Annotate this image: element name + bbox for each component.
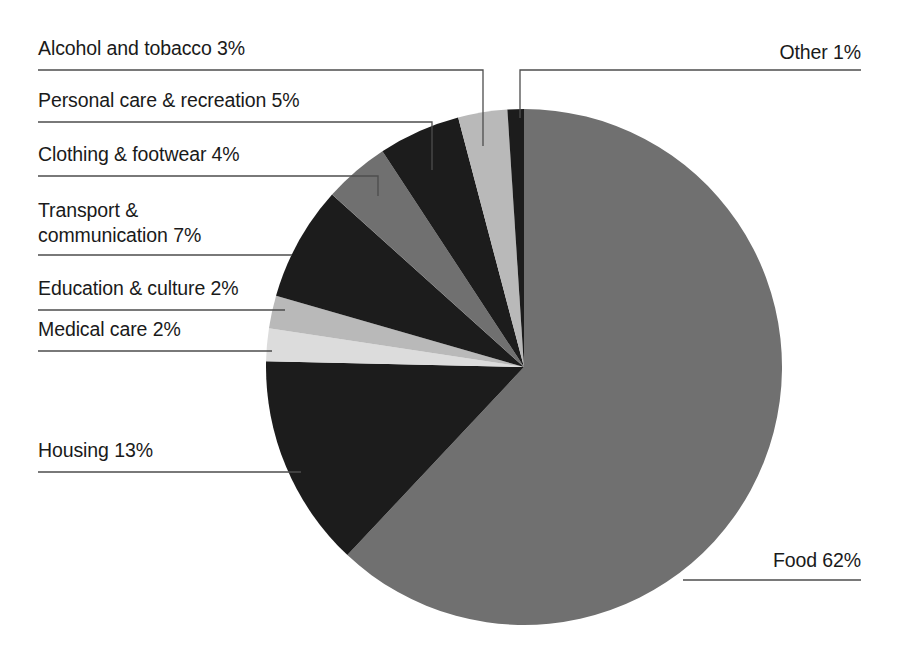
label-clothing-footwear: Clothing & footwear 4% [38, 142, 240, 167]
leader-clothing [38, 176, 378, 196]
label-transport-communication-2: communication 7% [38, 223, 201, 248]
label-medical-care: Medical care 2% [38, 317, 181, 342]
label-other: Other 1% [779, 40, 861, 65]
leader-other [520, 70, 861, 118]
pie-chart-figure: Alcohol and tobacco 3% Personal care & r… [0, 0, 899, 666]
label-personal-care-recreation: Personal care & recreation 5% [38, 88, 300, 113]
pie-slices [266, 109, 782, 625]
label-alcohol-and-tobacco: Alcohol and tobacco 3% [38, 36, 245, 61]
label-education-culture: Education & culture 2% [38, 276, 239, 301]
label-transport-communication-1: Transport & [38, 198, 138, 223]
label-housing: Housing 13% [38, 438, 153, 463]
label-food: Food 62% [773, 548, 861, 573]
